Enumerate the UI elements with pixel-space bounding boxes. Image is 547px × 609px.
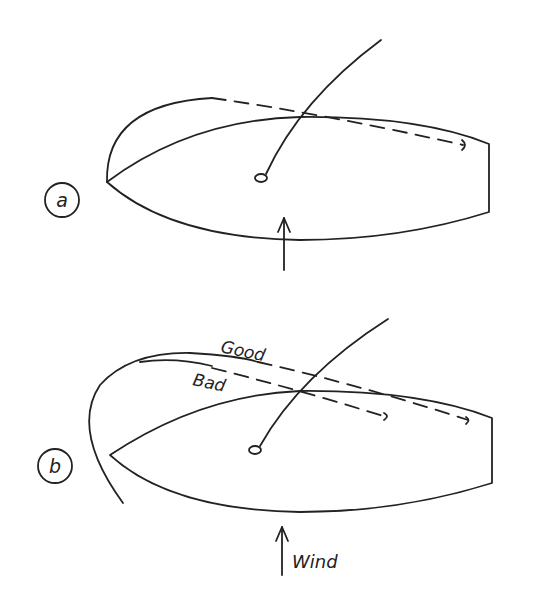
bad-label: Bad	[191, 369, 228, 395]
good-label: Good	[219, 336, 267, 365]
hull-outline-b	[110, 391, 492, 512]
mast-step-a	[255, 174, 267, 182]
spinnaker-pole-a	[266, 40, 381, 174]
wind-arrow-b	[276, 527, 288, 575]
panel-b: b Good Bad Wind	[38, 319, 492, 575]
panel-a-label: a	[56, 189, 68, 211]
mast-step-b	[249, 446, 261, 454]
sheet-block-bad-b	[384, 413, 387, 420]
wind-arrow-a	[278, 218, 290, 270]
hull-outline-a	[107, 117, 489, 240]
spinnaker-b	[89, 353, 258, 503]
panel-b-label-badge: b	[38, 449, 72, 483]
spinnaker-bad-b	[140, 360, 212, 366]
spinnaker-pole-b	[260, 319, 388, 446]
spinnaker-a	[107, 98, 212, 182]
panel-b-label: b	[49, 455, 61, 477]
wind-label: Wind	[292, 551, 338, 572]
panel-a-label-badge: a	[45, 183, 79, 217]
sail-trim-diagram: a b Good	[0, 0, 547, 609]
panel-a: a	[45, 40, 489, 270]
